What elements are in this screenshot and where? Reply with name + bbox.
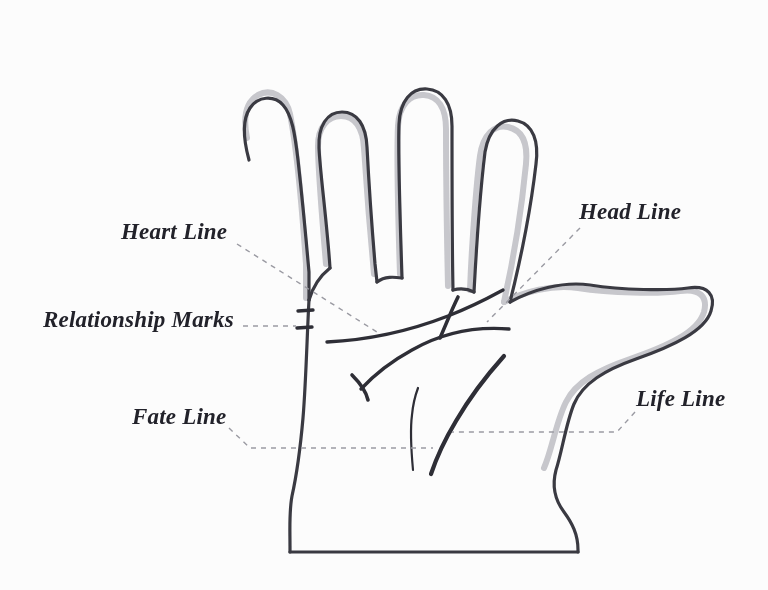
label-life-line: Life Line <box>636 386 725 412</box>
palm-left-edge-outline <box>290 300 309 552</box>
heart-line-path <box>327 290 503 342</box>
head-line-fork <box>352 375 368 400</box>
label-head-line: Head Line <box>579 199 681 225</box>
label-heart-line: Heart Line <box>121 219 227 245</box>
web-pinky-ring <box>309 268 330 300</box>
web-middle-index <box>453 289 474 292</box>
relationship-mark-tick-1 <box>298 310 313 311</box>
leader-life-line <box>452 412 635 432</box>
thumb-and-palm-right-outline <box>510 284 712 552</box>
fate-line-path <box>411 388 418 470</box>
leader-lines <box>229 228 635 448</box>
leader-fate-line <box>229 428 433 448</box>
head-line-path <box>361 328 509 389</box>
label-fate-line: Fate Line <box>132 404 226 430</box>
leader-head-line <box>487 228 580 322</box>
hand-diagram-svg <box>0 0 768 590</box>
palmistry-diagram-page: Heart Line Head Line Relationship Marks … <box>0 0 768 590</box>
palm-lines <box>327 290 509 474</box>
relationship-mark-tick-2 <box>297 327 312 328</box>
relationship-marks-ticks <box>297 310 313 328</box>
web-ring-middle <box>377 277 402 282</box>
label-relationship-marks: Relationship Marks <box>43 307 234 333</box>
life-line-path <box>431 356 504 474</box>
